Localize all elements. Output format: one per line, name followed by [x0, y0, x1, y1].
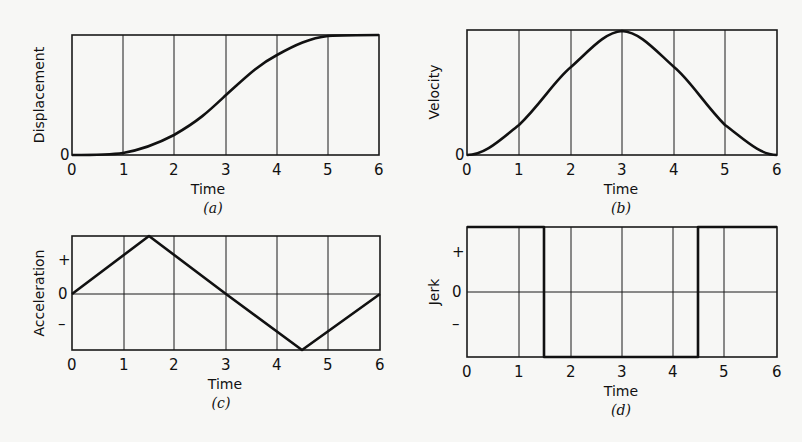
- panel-c-xlabel: Time: [207, 376, 242, 392]
- panel-b-x-ticks: 0 1 2 3 4 5 6: [462, 161, 782, 179]
- svg-text:3: 3: [617, 161, 627, 179]
- panel-c-y-plus: +: [58, 251, 71, 269]
- panel-c-x-ticks: 0 1 2 3 4 5 6: [67, 356, 385, 374]
- svg-text:1: 1: [119, 161, 129, 179]
- svg-text:4: 4: [669, 161, 679, 179]
- panel-d-ylabel: Jerk: [426, 278, 442, 306]
- panel-b-ylabel: Velocity: [426, 65, 442, 120]
- panel-c-y-zero: 0: [58, 285, 68, 303]
- panel-b-velocity: 0 0 1 2 3 4 5 6 Time (b) Velocity: [426, 30, 782, 216]
- svg-text:6: 6: [375, 356, 385, 374]
- svg-text:2: 2: [169, 161, 179, 179]
- svg-text:0: 0: [462, 363, 472, 381]
- panel-a-ylabel: Displacement: [31, 46, 47, 143]
- svg-text:1: 1: [514, 161, 524, 179]
- svg-text:0: 0: [462, 161, 472, 179]
- panel-d-xlabel: Time: [603, 383, 638, 399]
- figure: 0 0 1 2 3 4 5 6 Time (a) Displacement 0 …: [0, 0, 802, 442]
- svg-text:2: 2: [169, 356, 179, 374]
- svg-text:5: 5: [720, 161, 730, 179]
- svg-text:2: 2: [566, 363, 576, 381]
- panel-c-acceleration: + 0 – 0 1 2 3 4 5 6 Time (c) Acceleratio…: [31, 236, 385, 411]
- panel-d-grid: [467, 227, 777, 357]
- svg-text:2: 2: [566, 161, 576, 179]
- svg-text:1: 1: [514, 363, 524, 381]
- panel-c-ylabel: Acceleration: [31, 250, 47, 337]
- svg-text:6: 6: [374, 161, 384, 179]
- panel-d-y-zero: 0: [452, 283, 462, 301]
- panel-d-jerk: + 0 – 0 1 2 3 4 5 6 Time (d) Jerk: [426, 227, 782, 418]
- panel-c-subtitle: (c): [212, 395, 231, 411]
- panel-d-y-minus: –: [452, 315, 460, 333]
- svg-text:0: 0: [67, 356, 77, 374]
- svg-text:4: 4: [668, 363, 678, 381]
- chart-canvas: 0 0 1 2 3 4 5 6 Time (a) Displacement 0 …: [0, 0, 802, 442]
- svg-text:4: 4: [272, 161, 282, 179]
- panel-a-xlabel: Time: [190, 181, 225, 197]
- svg-text:5: 5: [323, 161, 333, 179]
- panel-c-y-minus: –: [58, 315, 66, 333]
- panel-b-grid: [519, 30, 725, 155]
- panel-a-x-ticks: 0 1 2 3 4 5 6: [67, 161, 384, 179]
- panel-b-subtitle: (b): [611, 200, 631, 216]
- svg-text:0: 0: [67, 161, 77, 179]
- svg-text:1: 1: [119, 356, 129, 374]
- svg-text:5: 5: [323, 356, 333, 374]
- svg-text:6: 6: [772, 161, 782, 179]
- panel-a-displacement: 0 0 1 2 3 4 5 6 Time (a) Displacement: [31, 35, 384, 216]
- panel-d-x-ticks: 0 1 2 3 4 5 6: [462, 363, 782, 381]
- svg-text:3: 3: [221, 356, 231, 374]
- panel-d-y-plus: +: [452, 243, 465, 261]
- panel-a-subtitle: (a): [203, 200, 222, 216]
- panel-d-subtitle: (d): [611, 402, 631, 418]
- svg-text:5: 5: [719, 363, 729, 381]
- panel-b-xlabel: Time: [603, 181, 638, 197]
- svg-text:3: 3: [617, 363, 627, 381]
- svg-text:6: 6: [772, 363, 782, 381]
- svg-text:4: 4: [272, 356, 282, 374]
- svg-text:3: 3: [221, 161, 231, 179]
